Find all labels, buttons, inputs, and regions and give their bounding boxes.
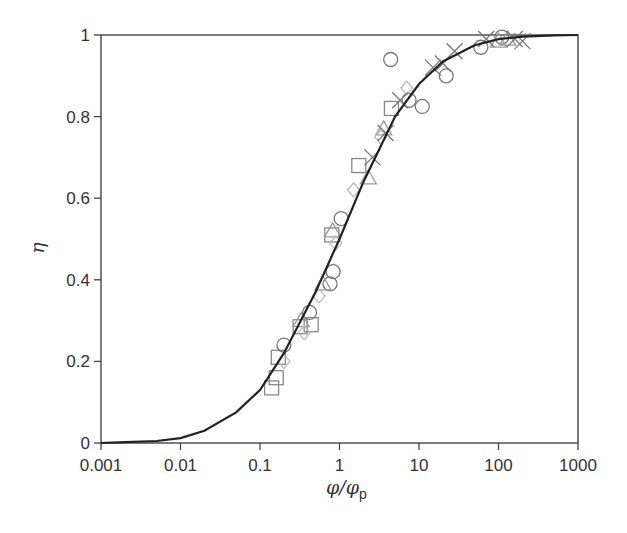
y-tick-label: 0.8	[66, 108, 90, 127]
circle-marker	[415, 99, 429, 113]
square-marker	[265, 381, 279, 395]
x-tick-label: 100	[484, 456, 512, 475]
x-tick-label: 0.001	[80, 456, 123, 475]
y-tick-label: 0.2	[66, 352, 90, 371]
x-tick-label: 1	[335, 456, 344, 475]
chart: 0.0010.010.11101001000 00.20.40.60.81 η …	[0, 0, 627, 533]
y-tick-label: 1	[81, 26, 90, 45]
data-markers	[265, 30, 531, 395]
y-tick-label: 0.6	[66, 189, 90, 208]
y-tick-label: 0.4	[66, 271, 90, 290]
x-tick-label: 1000	[559, 456, 597, 475]
x-axis-label: φ/φp	[326, 476, 367, 502]
square-marker	[352, 159, 366, 173]
x-axis-label-subscript: p	[359, 486, 367, 502]
x-tick-label: 10	[410, 456, 429, 475]
y-axis: 00.20.40.60.81	[66, 26, 101, 453]
x-tick-label: 0.1	[248, 456, 272, 475]
x-axis-label-main: φ/φ	[326, 476, 360, 498]
cross-marker	[447, 43, 463, 59]
x-axis: 0.0010.010.11101001000	[80, 443, 597, 475]
fit-curve	[101, 35, 578, 443]
y-axis-label: η	[26, 242, 48, 254]
x-tick-label: 0.01	[164, 456, 197, 475]
y-tick-label: 0	[81, 434, 90, 453]
circle-marker	[384, 52, 398, 66]
